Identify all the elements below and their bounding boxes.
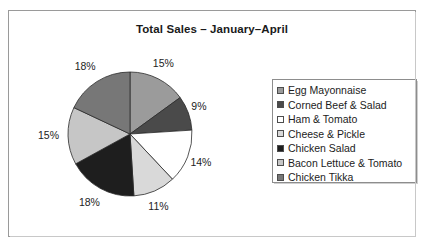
legend-swatch-icon (277, 101, 284, 108)
pie-chart (67, 71, 193, 197)
legend-item-label: Egg Mayonnaise (288, 84, 366, 96)
legend-item[interactable]: Cheese & Pickle (277, 127, 412, 141)
pie-slice-percentage: 11% (148, 200, 168, 212)
legend-item-label: Cheese & Pickle (288, 128, 365, 140)
legend-item-label: Corned Beef & Salad (288, 99, 387, 111)
legend-item-label: Ham & Tomato (288, 113, 357, 125)
legend-item[interactable]: Ham & Tomato (277, 112, 412, 126)
chart-legend: Egg MayonnaiseCorned Beef & SaladHam & T… (272, 79, 417, 183)
pie-slice-percentage: 15% (38, 129, 59, 141)
legend-swatch-icon (277, 116, 284, 123)
legend-item[interactable]: Corned Beef & Salad (277, 98, 412, 112)
pie-slice-percentage: 14% (190, 156, 211, 168)
legend-swatch-icon (277, 174, 284, 181)
legend-swatch-icon (277, 87, 284, 94)
chart-title: Total Sales – January–April (9, 23, 415, 35)
legend-item-label: Bacon Lettuce & Tomato (288, 157, 402, 169)
pie-slice-percentage: 9% (191, 100, 206, 112)
pie-svg (67, 71, 193, 197)
pie-slice-percentage: 18% (79, 196, 100, 208)
legend-item[interactable]: Chicken Salad (277, 141, 412, 155)
legend-swatch-icon (277, 145, 284, 152)
pie-slice-percentage: 15% (153, 57, 174, 69)
legend-item-label: Chicken Salad (288, 142, 356, 154)
legend-item-label: Chicken Tikka (288, 171, 353, 183)
legend-swatch-icon (277, 130, 284, 137)
chart-frame: Total Sales – January–April 15%9%14%11%1… (8, 10, 416, 237)
pie-plot-area: 15%9%14%11%18%15%18% (19, 53, 267, 229)
legend-item[interactable]: Chicken Tikka (277, 170, 412, 184)
legend-item[interactable]: Bacon Lettuce & Tomato (277, 156, 412, 170)
legend-item[interactable]: Egg Mayonnaise (277, 83, 412, 97)
legend-swatch-icon (277, 159, 284, 166)
pie-slice-percentage: 18% (75, 60, 96, 72)
